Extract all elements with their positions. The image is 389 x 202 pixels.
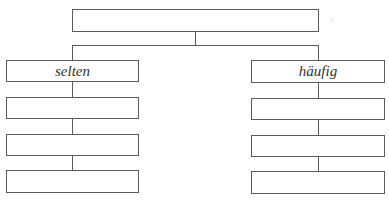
- right-connector-3: [318, 157, 319, 171]
- left-child-box-1: [6, 97, 139, 119]
- left-child-box-2: [6, 134, 139, 156]
- right-branch-drop-connector: [318, 45, 319, 60]
- root-box: [72, 9, 319, 32]
- right-connector-1: [318, 83, 319, 98]
- left-connector-3: [72, 156, 73, 170]
- right-branch-label: häufig: [299, 64, 337, 79]
- left-branch-drop-connector: [72, 45, 73, 60]
- left-branch-label: selten: [55, 64, 90, 79]
- branch-horizontal-connector: [72, 45, 319, 46]
- right-child-box-1: [251, 98, 385, 120]
- right-child-box-3: [251, 171, 385, 194]
- left-child-box-3: [6, 170, 139, 193]
- left-connector-1: [72, 82, 73, 97]
- left-connector-2: [72, 119, 73, 134]
- scan-speck: [331, 20, 332, 21]
- right-branch-box: häufig: [251, 60, 385, 83]
- right-child-box-2: [251, 135, 385, 157]
- root-stem-connector: [195, 32, 196, 46]
- right-connector-2: [318, 120, 319, 135]
- left-branch-box: selten: [6, 60, 139, 82]
